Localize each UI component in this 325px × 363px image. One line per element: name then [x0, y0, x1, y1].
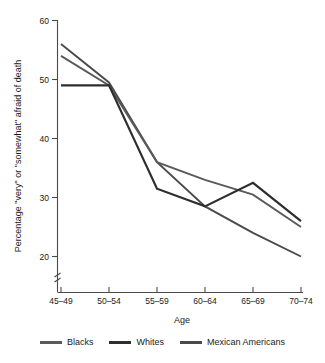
x-tick-label-55-59: 55–59 — [145, 296, 169, 306]
legend-swatch-mexican-americans — [180, 341, 202, 344]
series-line-mexican-americans — [61, 44, 301, 256]
legend-item-blacks: Blacks — [40, 337, 94, 348]
y-tick-label-50: 50 — [40, 75, 50, 85]
series-group — [61, 44, 301, 256]
legend-label-blacks: Blacks — [67, 337, 94, 348]
chart-figure: 60 50 40 30 20 45–49 50–54 55–59 60–64 6… — [0, 0, 325, 363]
legend-item-mexican-americans: Mexican Americans — [180, 337, 285, 348]
y-tick-label-30: 30 — [40, 193, 50, 203]
x-tick-label-70-74: 70–74 — [289, 296, 313, 306]
legend-swatch-whites — [109, 341, 131, 344]
x-axis-title: Age — [174, 315, 190, 325]
legend-swatch-blacks — [40, 341, 62, 344]
chart-legend: Blacks Whites Mexican Americans — [0, 337, 325, 348]
series-line-whites — [61, 85, 301, 221]
series-line-blacks — [61, 56, 301, 227]
x-tick-label-50-54: 50–54 — [97, 296, 121, 306]
y-axis-ticks: 60 50 40 30 20 — [40, 16, 58, 262]
line-chart-plot: 60 50 40 30 20 45–49 50–54 55–59 60–64 6… — [0, 0, 325, 363]
y-tick-label-60: 60 — [40, 16, 50, 26]
x-tick-label-45-49: 45–49 — [49, 296, 73, 306]
x-tick-label-65-69: 65–69 — [241, 296, 265, 306]
legend-item-whites: Whites — [109, 337, 164, 348]
x-axis-ticks: 45–49 50–54 55–59 60–64 65–69 70–74 — [49, 287, 313, 306]
legend-label-whites: Whites — [136, 337, 164, 348]
y-axis-title: Percentage "very" or "somewhat" afraid o… — [13, 60, 23, 252]
x-tick-label-60-64: 60–64 — [193, 296, 217, 306]
y-tick-label-20: 20 — [40, 252, 50, 262]
legend-label-mexican-americans: Mexican Americans — [207, 337, 285, 348]
y-tick-label-40: 40 — [40, 134, 50, 144]
